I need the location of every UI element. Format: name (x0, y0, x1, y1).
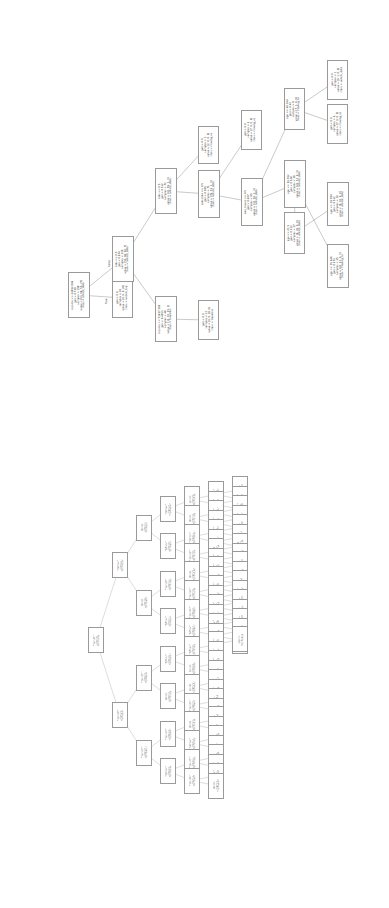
tree-node-text: own_house <= 0.5gini = 0.687samples = 29… (165, 502, 171, 515)
tree-node-lower-62: kids <= 0.5gini = 0.649samples = 39value… (208, 773, 224, 799)
tree-node-text: kids <= 0.5gini = 0.493samples = 38value… (189, 512, 195, 524)
tree-node-text: own_house <= 0.5gini = 0.733samples = 21… (165, 765, 171, 777)
tree-node-text: subscribe <= 0.5gini = 0.045samples = 5v… (165, 616, 171, 627)
tree-node-text: income <= 71937.382gini = 0.4453samples … (159, 305, 173, 334)
tree-node-text: kids <= 0.5gini = 0.497samples = 44value… (141, 522, 147, 533)
tree-node-lower-8: subscribe <= 0.5gini = 0.747samples = 11… (160, 533, 176, 559)
tree-node-text: age <= 39.5gini = 0.329samples = 19value… (189, 494, 195, 506)
tree-node-lower-3: kids <= 0.5gini = 0.497samples = 44value… (136, 515, 152, 541)
tree-node-text: age <= 19.784gini = 0.512samples = 10val… (331, 191, 345, 217)
tree-node-lower-6: income <= 83040.0gini = 0.203samples = 5… (136, 740, 152, 766)
tree-node-text: gini = 0.0samples = 6value = [7, 0, 0, 0… (332, 112, 343, 136)
tree-node-text: age <= 51.5gini = 0.507samples = 39value… (189, 680, 195, 693)
tree-node-text: income <= 21061.0gini = 0.736samples = 2… (189, 606, 195, 618)
tree-node-upper-4: gini = 0.0samples = 12value = [0, 0, 18,… (198, 300, 219, 340)
tree-node-text: age <= 21.5gini = 0.312samples = 27value… (287, 220, 301, 246)
tree-node-upper-16: age <= 35.646gini = 0.273samples = 25val… (327, 244, 349, 288)
tree-node-upper-8: own_house <= 0.5gini = 0.407samples = 65… (241, 178, 263, 226)
tree-node-lower-95: gini = 0.0samples = 40value = [14, 11, 2… (232, 626, 248, 652)
tree-node-text: kids <= 0.5gini = 0.674samples = 120valu… (116, 245, 130, 274)
edge-label-false: False (106, 262, 113, 265)
tree-node-lower-13: income <= 74256.0gini = 0.039samples = 2… (160, 721, 176, 747)
tree-node-upper-14: age <= 21.5gini = 0.312samples = 27value… (284, 212, 305, 254)
tree-node-upper-10: age <= 40.164gini = 0.42samples = 8value… (284, 88, 305, 130)
tree-node-lower-9: income <= 60556.0gini = 0.173samples = 2… (160, 571, 176, 597)
tree-node-lower-12: kids <= 0.5gini = 0.259samples = 45value… (160, 683, 176, 709)
tree-node-text: age <= 30.5gini = 0.499samples = 38value… (189, 662, 195, 674)
tree-node-text: income <= 74256.0gini = 0.039samples = 2… (165, 728, 171, 740)
tree-node-lower-7: own_house <= 0.5gini = 0.687samples = 29… (160, 496, 176, 522)
tree-node-text: kids <= 0.5gini = 0.512samples = 72value… (159, 177, 173, 204)
tree-node-lower-11: subscribe <= 0.5gini = 0.540samples = 13… (160, 646, 176, 672)
tree-node-text: gini = 0.0samples = 18value = [0, 0, 0, … (117, 285, 128, 311)
tree-node-text: income <= 26066.0gini = 0.014samples = 1… (189, 550, 195, 562)
tree-node-text: gini = 0.0samples = 4value = [7, 0, 0, 0… (246, 118, 257, 142)
decision-tree-figure: income <= 24952.084gini = 0.739samples =… (0, 0, 389, 908)
tree-node-text: own_house <= 0.5gini = 0.567samples = 7v… (189, 737, 195, 749)
tree-node-text: subscribe <= 0.5gini = 0.395samples = 43… (189, 625, 195, 637)
tree-node-lower-4: kids <= 0.5gini = 0.358samples = 12value… (136, 590, 152, 616)
tree-node-text: gini = 0.0samples = 40value = [14, 11, 2… (237, 633, 242, 645)
tree-node-lower-30: income <= 15533.0gini = 0.570samples = 1… (184, 768, 200, 794)
tree-node-text: kids <= 0.5gini = 0.358samples = 12value… (141, 597, 147, 609)
tree-node-lower-5: income <= 74135.0gini = 0.542samples = 4… (136, 665, 152, 691)
tree-node-text: income <= 83040.0gini = 0.203samples = 5… (141, 746, 147, 758)
tree-node-text: income <= 30853.0gini = 0.344samples = 9… (189, 756, 195, 768)
tree-node-lower-2: income <= 59816.0gini = 0.500samples = 2… (112, 702, 128, 728)
tree-node-upper-0: income <= 24952.084gini = 0.739samples =… (68, 272, 90, 318)
tree-node-lower-1: own_house <= 0.5gini = 0.496samples = 33… (112, 552, 128, 578)
tree-node-lower-14: own_house <= 0.5gini = 0.733samples = 21… (160, 758, 176, 784)
tree-node-upper-12: gini = 0.0samples = 1value = [0, 1, 0, 0… (327, 60, 348, 100)
tree-node-text: gini = 0.0samples = 12value = [0, 0, 18,… (203, 307, 214, 333)
tree-node-text: income <= 74135.0gini = 0.542samples = 4… (141, 672, 147, 684)
tree-node-text: own_house <= 0.5gini = 0.233samples = 3v… (189, 531, 195, 543)
tree-node-upper-13: gini = 0.0samples = 6value = [7, 0, 0, 0… (327, 104, 348, 144)
tree-node-text: age <= 26.762gini = 0.528samples = 38val… (288, 170, 302, 197)
tree-node-text: income <= 68723.0gini = 0.294samples = 4… (189, 700, 195, 712)
tree-node-text: income <= 59816.0gini = 0.500samples = 2… (117, 709, 123, 721)
tree-node-text: own_house <= 0.5gini = 0.496samples = 33… (117, 559, 123, 571)
tree-node-text: subscribe <= 0.5gini = 0.747samples = 11… (165, 541, 171, 552)
tree-node-text: kids <= 0.5gini = 0.487samples = 26value… (189, 719, 195, 731)
tree-node-text: kids <= 0.5gini = 0.701samples = 38value… (189, 568, 195, 581)
tree-node-text: own_house <= 0.5gini = 0.407samples = 65… (245, 188, 259, 215)
tree-node-upper-2: kids <= 0.5gini = 0.674samples = 120valu… (112, 236, 134, 282)
tree-node-upper-9: gini = 0.0samples = 4value = [7, 0, 0, 0… (241, 110, 262, 150)
tree-node-upper-15: age <= 19.784gini = 0.512samples = 10val… (327, 182, 349, 226)
tree-node-text: subscribe <= 0.5gini = 0.540samples = 13… (165, 653, 171, 665)
tree-node-upper-3: income <= 71937.382gini = 0.4453samples … (155, 296, 177, 342)
tree-node-lower-0: income <= 72734.0gini = 0.665samples = 1… (88, 627, 104, 653)
tree-node-text: income <= 15533.0gini = 0.570samples = 1… (189, 775, 195, 787)
tree-node-upper-7: gini = 0.0samples = 1value = [2, 0, 0, 0… (198, 126, 219, 164)
tree-node-upper-1: gini = 0.0samples = 18value = [0, 0, 0, … (112, 278, 133, 318)
tree-node-text: income <= 60556.0gini = 0.173samples = 2… (165, 578, 171, 590)
edge-label-true: True (104, 300, 110, 303)
tree-node-text: income <= 72734.0gini = 0.665samples = 1… (93, 634, 99, 646)
tree-node-text: subscribe <= 0.5gini = 0.186samples = 58… (189, 644, 195, 655)
tree-node-lower-10: subscribe <= 0.5gini = 0.045samples = 5v… (160, 608, 176, 634)
tree-node-upper-6: subscribe <= 0.5gini = 0.389samples = 71… (198, 170, 220, 218)
tree-node-upper-11: age <= 26.762gini = 0.528samples = 38val… (284, 160, 306, 208)
tree-node-upper-5: kids <= 0.5gini = 0.512samples = 72value… (155, 168, 177, 214)
tree-node-text: income <= 24952.084gini = 0.739samples =… (72, 280, 86, 311)
tree-node-text: subscribe <= 0.5gini = 0.389samples = 71… (202, 180, 216, 207)
tree-node-text: gini = 0.0samples = 1value = [2, 0, 0, 0… (203, 133, 214, 157)
tree-node-text: age <= 40.164gini = 0.42samples = 8value… (287, 97, 301, 121)
tree-node-text: kids <= 0.5gini = 0.649samples = 39value… (213, 779, 219, 792)
tree-node-text: income <= 86453.0gini = 0.199samples = 4… (189, 587, 195, 599)
tree-node-text: age <= 35.646gini = 0.273samples = 25val… (331, 252, 345, 279)
tree-node-text: kids <= 0.5gini = 0.259samples = 45value… (165, 691, 171, 703)
tree-node-text: gini = 0.0samples = 1value = [0, 1, 0, 0… (332, 67, 343, 92)
